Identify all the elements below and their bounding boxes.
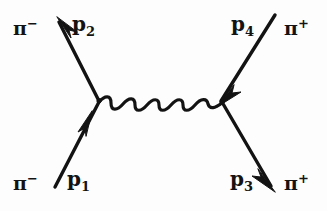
vertex-dot-left: [97, 99, 101, 103]
label-pi-plus-lower-right: π+: [284, 172, 309, 193]
label-momentum-p4: p4: [231, 14, 254, 38]
wavy-propagator: [99, 97, 222, 110]
vertex-dot-right: [220, 100, 224, 104]
p3-base: p: [230, 167, 244, 191]
p3-subscript: 3: [244, 179, 253, 194]
pi-symbol: π: [284, 172, 298, 194]
p2-subscript: 2: [86, 24, 95, 39]
p4-subscript: 4: [245, 24, 254, 39]
pi-charge: +: [298, 16, 309, 31]
diagram-lines: [55, 15, 275, 192]
label-momentum-p2: p2: [72, 14, 95, 38]
pi-symbol: π: [13, 172, 27, 194]
p1-subscript: 1: [81, 179, 90, 194]
pi-symbol: π: [284, 17, 298, 39]
feynman-diagram-figure: π− p2 p4 π+ π− p1 p3 π+: [0, 0, 327, 211]
pi-charge: −: [27, 16, 38, 31]
label-pi-minus-upper-left: π−: [13, 17, 38, 38]
p2-base: p: [72, 12, 86, 36]
label-momentum-p1: p1: [67, 169, 90, 193]
pi-charge: −: [27, 171, 38, 186]
pi-charge: +: [298, 171, 309, 186]
label-pi-plus-upper-right: π+: [284, 17, 309, 38]
p4-base: p: [231, 12, 245, 36]
pi-symbol: π: [13, 17, 27, 39]
feynman-diagram-canvas: [0, 0, 327, 211]
label-pi-minus-lower-left: π−: [13, 172, 38, 193]
p1-base: p: [67, 167, 81, 191]
label-momentum-p3: p3: [230, 169, 253, 193]
